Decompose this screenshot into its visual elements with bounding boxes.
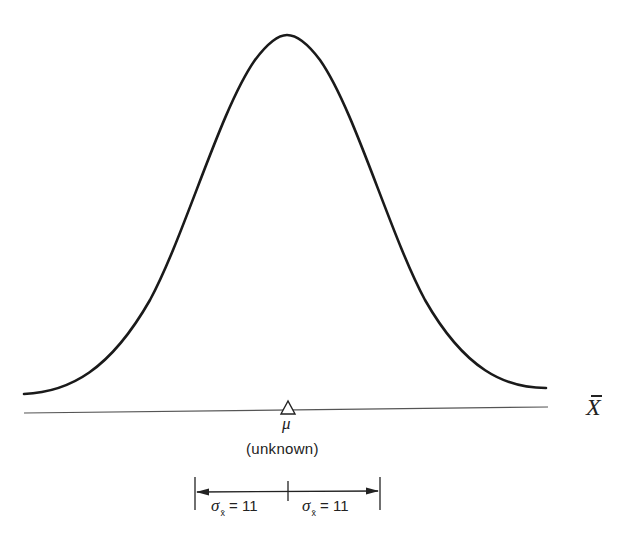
mean-symbol-label: μ — [282, 414, 291, 434]
mean-triangle-marker — [281, 401, 295, 414]
right-arrowhead-icon — [366, 488, 379, 495]
bracket-line — [197, 491, 378, 492]
subscript-x-bar: x̄ — [311, 508, 316, 518]
sampling-distribution-diagram — [0, 0, 637, 538]
mean-unknown-note: (unknown) — [246, 440, 319, 457]
normal-curve — [24, 35, 546, 394]
x-bar-overline — [591, 395, 602, 397]
left-arrowhead-icon — [196, 489, 209, 496]
left-standard-error-label: σx̄ = 11 — [211, 496, 258, 516]
subscript-x-bar: x̄ — [220, 508, 225, 518]
axis-label-x-bar: X — [586, 394, 601, 421]
right-standard-error-label: σx̄ = 11 — [302, 496, 349, 516]
